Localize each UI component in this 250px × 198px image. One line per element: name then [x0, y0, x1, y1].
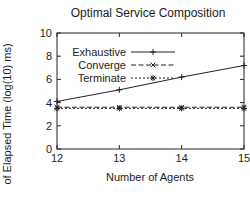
legend-label-exhaustive: Exhaustive: [72, 46, 126, 58]
plus-marker-icon: [116, 87, 122, 93]
asterisk-marker-icon: [179, 105, 185, 111]
y-tick-label: 0: [46, 143, 52, 155]
x-tick-label: 13: [113, 152, 125, 164]
y-axis-label: of Elapsed Time (log(10) ms): [1, 43, 13, 184]
y-tick-label: 8: [46, 50, 52, 62]
y-tick-label: 10: [40, 27, 52, 39]
chart-title: Optimal Service Composition: [71, 6, 226, 20]
plus-marker-icon: [241, 62, 247, 68]
legend-label-terminate: Terminate: [78, 72, 126, 84]
y-tick-label: 6: [46, 73, 52, 85]
chart-figure: Optimal Service Composition Number of Ag…: [0, 0, 250, 198]
chart-legend: ExhaustiveConvergeTerminate: [72, 46, 175, 84]
plus-marker-icon: [150, 49, 156, 55]
x-tick-label: 14: [176, 152, 188, 164]
y-tick-label: 2: [46, 120, 52, 132]
x-tick-label: 15: [238, 152, 250, 164]
asterisk-marker-icon: [54, 105, 60, 111]
x-tick-label: 12: [51, 152, 63, 164]
x-axis-label: Number of Agents: [106, 171, 195, 183]
legend-label-converge: Converge: [78, 59, 126, 71]
plus-marker-icon: [54, 98, 60, 104]
y-tick-label: 4: [46, 97, 52, 109]
asterisk-marker-icon: [116, 105, 122, 111]
line-chart: Optimal Service Composition Number of Ag…: [0, 0, 250, 198]
plus-marker-icon: [179, 74, 185, 80]
asterisk-marker-icon: [150, 75, 156, 81]
asterisk-marker-icon: [241, 105, 247, 111]
